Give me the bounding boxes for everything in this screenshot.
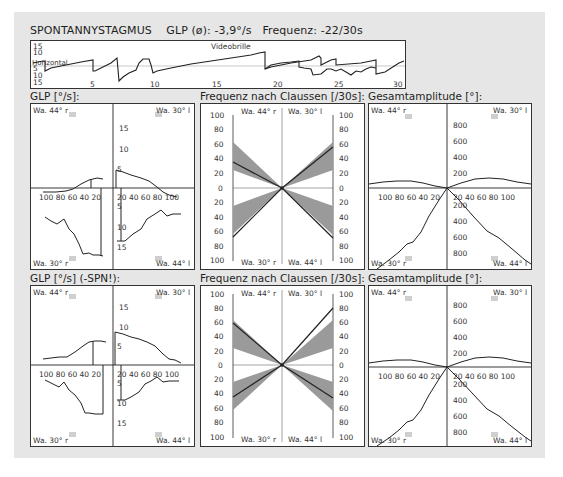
frequency-panel-label: Frequenz nach Claussen [/30s]: xyxy=(200,90,365,102)
svg-text:60: 60 xyxy=(339,404,349,413)
svg-text:400: 400 xyxy=(453,396,468,405)
svg-text:10: 10 xyxy=(117,223,127,232)
quadrant-label: Wa. 30° l xyxy=(493,106,527,115)
trace-xtick: 25 xyxy=(334,80,344,88)
amplitude-panel-label: Gesamtamplitude [°]: xyxy=(368,90,482,102)
svg-text:100: 100 xyxy=(339,290,354,299)
header-title: SPONTANNYSTAGMUS GLP (ø): -3,9°/s Freque… xyxy=(30,24,363,37)
trace-xtick: 20 xyxy=(273,80,283,88)
svg-text:60: 60 xyxy=(214,227,224,236)
quadrant-label: Wa. 44° l xyxy=(288,435,322,444)
quadrant-label: Wa. 30° r xyxy=(33,259,69,268)
svg-text:600: 600 xyxy=(453,137,468,146)
frequency-chart: 100806040200 20406080100 100806040200 20… xyxy=(200,103,365,270)
svg-text:0: 0 xyxy=(339,184,344,193)
glp-panel-label: GLP [°/s]: xyxy=(30,90,80,102)
title-text: SPONTANNYSTAGMUS xyxy=(30,24,152,37)
svg-text:200: 200 xyxy=(453,349,468,358)
svg-text:60: 60 xyxy=(214,140,224,149)
svg-text:80: 80 xyxy=(214,125,224,134)
quadrant-label: Wa. 44° r xyxy=(371,288,407,297)
svg-text:60: 60 xyxy=(214,318,224,327)
svg-text:20: 20 xyxy=(214,169,224,178)
svg-text:80: 80 xyxy=(339,242,349,251)
svg-text:600: 600 xyxy=(453,233,468,242)
svg-text:100 80 60 40 20: 100 80 60 40 20 xyxy=(39,370,101,379)
svg-text:10: 10 xyxy=(119,145,129,154)
svg-text:100 80 60 40 20: 100 80 60 40 20 xyxy=(39,193,101,202)
svg-text:40: 40 xyxy=(339,332,349,341)
svg-text:100: 100 xyxy=(210,111,225,120)
frequency-chart-2: 100806040200 20406080100 100806040200 20… xyxy=(200,285,365,447)
svg-text:800: 800 xyxy=(453,249,468,258)
quadrant-label: Wa. 44° r xyxy=(241,289,277,298)
glp-chart: Wa. 44° r Wa. 30° l Wa. 30° r Wa. 44° l … xyxy=(30,103,195,270)
svg-text:20 40 60 80 100: 20 40 60 80 100 xyxy=(117,193,179,202)
svg-text:600: 600 xyxy=(453,412,468,421)
svg-text:40: 40 xyxy=(214,332,224,341)
frequency-panel-label-2: Frequenz nach Claussen [/30s]: xyxy=(200,272,365,284)
quadrant-label: Wa. 30° l xyxy=(288,289,322,298)
svg-text:20 40 60 80 100: 20 40 60 80 100 xyxy=(453,193,515,202)
glp-summary: GLP (ø): -3,9°/s xyxy=(166,24,251,37)
svg-text:80: 80 xyxy=(339,418,349,427)
quadrant-label: Wa. 44° r xyxy=(33,106,69,115)
svg-text:40: 40 xyxy=(339,213,349,222)
svg-text:20: 20 xyxy=(339,169,349,178)
trace-ytick: 15 xyxy=(33,78,43,87)
svg-text:15: 15 xyxy=(119,303,129,312)
svg-text:20: 20 xyxy=(214,375,224,384)
trace-label-videobrille: Videobrille xyxy=(211,42,251,51)
quadrant-label: Wa. 44° l xyxy=(156,436,190,445)
amplitude-chart-2: Wa. 44° r Wa. 30° l Wa. 30° r Wa. 44° l … xyxy=(368,285,532,447)
svg-text:200: 200 xyxy=(453,380,468,389)
svg-text:400: 400 xyxy=(453,153,468,162)
svg-text:20: 20 xyxy=(339,375,349,384)
svg-text:100: 100 xyxy=(339,111,354,120)
svg-text:80: 80 xyxy=(339,125,349,134)
svg-text:5: 5 xyxy=(117,165,122,174)
svg-text:20: 20 xyxy=(339,347,349,356)
svg-text:20: 20 xyxy=(214,347,224,356)
quadrant-label: Wa. 30° l xyxy=(288,107,322,116)
quadrant-label: Wa. 30° l xyxy=(156,106,190,115)
svg-text:60: 60 xyxy=(214,404,224,413)
svg-text:80: 80 xyxy=(339,304,349,313)
svg-text:40: 40 xyxy=(214,154,224,163)
frequency-summary: Frequenz: -22/30s xyxy=(262,24,362,37)
svg-text:80: 80 xyxy=(214,418,224,427)
quadrant-label: Wa. 44° r xyxy=(371,106,407,115)
svg-text:20 40 60 80 100: 20 40 60 80 100 xyxy=(453,372,515,381)
svg-text:200: 200 xyxy=(453,169,468,178)
quadrant-label: Wa. 44° r xyxy=(241,107,277,116)
trace-xtick: 15 xyxy=(212,80,222,88)
quadrant-label: Wa. 44° l xyxy=(493,436,527,445)
svg-text:40: 40 xyxy=(339,154,349,163)
svg-text:100: 100 xyxy=(210,256,225,265)
svg-text:15: 15 xyxy=(119,124,129,133)
svg-text:80: 80 xyxy=(214,304,224,313)
svg-text:100 80 60 40 20: 100 80 60 40 20 xyxy=(378,372,440,381)
svg-text:100 80 60 40 20: 100 80 60 40 20 xyxy=(378,193,440,202)
svg-text:40: 40 xyxy=(214,213,224,222)
trace-ytick: 10 xyxy=(33,48,43,57)
quadrant-label: Wa. 30° r xyxy=(371,436,407,445)
svg-text:20: 20 xyxy=(214,198,224,207)
svg-text:100: 100 xyxy=(210,433,225,442)
svg-text:800: 800 xyxy=(453,301,468,310)
quadrant-label: Wa. 30° r xyxy=(33,436,69,445)
trace-xtick: 5 xyxy=(90,80,95,88)
svg-text:100: 100 xyxy=(339,256,354,265)
svg-text:0: 0 xyxy=(218,184,223,193)
svg-text:5: 5 xyxy=(117,342,122,351)
trace-xtick: 30 xyxy=(393,80,403,88)
quadrant-label: Wa. 44° l xyxy=(288,258,322,267)
glp-spn-panel-label: GLP [°/s] (-SPN!): xyxy=(30,272,120,284)
svg-text:20 40 60 80 100: 20 40 60 80 100 xyxy=(117,370,179,379)
svg-text:20: 20 xyxy=(339,198,349,207)
svg-text:800: 800 xyxy=(453,428,468,437)
quadrant-label: Wa. 30° r xyxy=(241,258,277,267)
svg-text:60: 60 xyxy=(339,227,349,236)
quadrant-label: Wa. 30° l xyxy=(493,288,527,297)
svg-text:200: 200 xyxy=(453,201,468,210)
